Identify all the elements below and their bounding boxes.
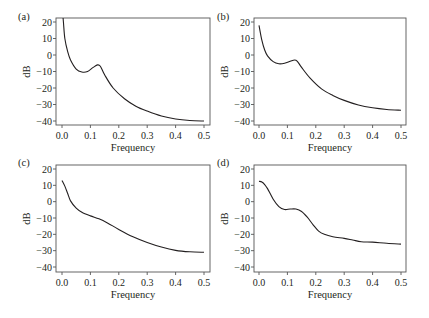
panel-label: (d) (217, 157, 230, 169)
y-tick-label: 10 (240, 33, 250, 44)
y-tick-label: −40 (36, 262, 52, 273)
y-axis-label: dB (219, 65, 230, 77)
x-axis-label: Frequency (111, 142, 156, 153)
x-tick-label: 0.4 (366, 130, 379, 141)
panel-d: 20100−10−20−30−400.00.10.20.30.40.5Frequ… (217, 157, 407, 300)
spectrum-line (62, 6, 204, 122)
x-tick-label: 0.1 (84, 130, 97, 141)
x-tick-label: 0.0 (253, 277, 266, 288)
y-tick-label: 0 (245, 196, 250, 207)
x-tick-label: 0.3 (141, 130, 154, 141)
x-tick-label: 0.3 (338, 277, 351, 288)
y-tick-label: −10 (234, 213, 250, 224)
x-tick-label: 0.5 (198, 277, 211, 288)
y-tick-label: −20 (36, 83, 52, 94)
y-tick-label: −10 (36, 66, 52, 77)
panel-c: 20100−10−20−30−400.00.10.20.30.40.5Frequ… (18, 157, 210, 300)
y-tick-label: −20 (36, 229, 52, 240)
panel-a: 20100−10−20−30−400.00.10.20.30.40.5Frequ… (18, 6, 210, 154)
y-tick-label: 20 (42, 164, 52, 175)
y-tick-label: −40 (234, 116, 250, 127)
y-axis-label: dB (21, 65, 32, 77)
y-tick-label: 10 (240, 180, 250, 191)
y-tick-label: −20 (234, 229, 250, 240)
y-axis-label: dB (21, 212, 32, 224)
y-tick-label: −10 (234, 66, 250, 77)
x-tick-label: 0.4 (366, 277, 379, 288)
y-tick-label: 0 (47, 196, 52, 207)
spectrum-line (259, 181, 401, 244)
x-tick-label: 0.2 (310, 277, 323, 288)
y-tick-label: 10 (42, 180, 52, 191)
y-axis-label: dB (219, 212, 230, 224)
y-tick-label: −30 (234, 245, 250, 256)
spectrum-line (259, 25, 401, 110)
y-tick-label: −40 (36, 116, 52, 127)
y-tick-label: 0 (245, 50, 250, 61)
x-axis-label: Frequency (308, 142, 353, 153)
x-axis-label: Frequency (111, 289, 156, 300)
x-tick-label: 0.2 (310, 130, 323, 141)
panel-label: (b) (217, 11, 230, 23)
x-tick-label: 0.3 (338, 130, 351, 141)
panel-label: (a) (18, 11, 30, 23)
panel-b: 20100−10−20−30−400.00.10.20.30.40.5Frequ… (217, 11, 407, 153)
x-tick-label: 0.1 (84, 277, 97, 288)
y-tick-label: −30 (36, 245, 52, 256)
y-tick-label: 20 (240, 164, 250, 175)
y-tick-label: −40 (234, 262, 250, 273)
y-tick-label: −30 (234, 99, 250, 110)
x-tick-label: 0.0 (56, 130, 69, 141)
x-tick-label: 0.2 (113, 277, 126, 288)
y-tick-label: −20 (234, 83, 250, 94)
spectrum-line (62, 180, 204, 252)
x-tick-label: 0.4 (169, 277, 182, 288)
y-tick-label: −10 (36, 213, 52, 224)
x-axis-label: Frequency (308, 289, 353, 300)
x-tick-label: 0.5 (395, 277, 408, 288)
y-tick-label: −30 (36, 99, 52, 110)
y-tick-label: 20 (42, 17, 52, 28)
y-tick-label: 10 (42, 33, 52, 44)
x-tick-label: 0.0 (253, 130, 266, 141)
x-tick-label: 0.2 (113, 130, 126, 141)
x-tick-label: 0.3 (141, 277, 154, 288)
y-tick-label: 0 (47, 50, 52, 61)
x-tick-label: 0.4 (169, 130, 182, 141)
x-tick-label: 0.5 (198, 130, 211, 141)
axes-frame (254, 165, 406, 272)
panel-label: (c) (18, 157, 30, 169)
spectral-density-figure: 20100−10−20−30−400.00.10.20.30.40.5Frequ… (0, 0, 429, 318)
axes-frame (56, 165, 210, 272)
x-tick-label: 0.1 (281, 277, 294, 288)
y-tick-label: 20 (240, 17, 250, 28)
x-tick-label: 0.1 (281, 130, 294, 141)
x-tick-label: 0.0 (56, 277, 69, 288)
x-tick-label: 0.5 (395, 130, 408, 141)
